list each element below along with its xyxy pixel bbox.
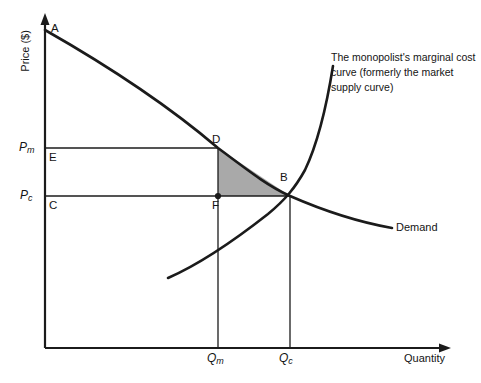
tick-label-quantity-competitive-main: Q [279,351,288,365]
point-label-d: D [212,132,220,146]
tick-label-price-competitive-main: P [20,188,28,202]
tick-label-quantity-competitive-sub: c [288,356,293,366]
demand-curve-label: Demand [396,221,438,235]
tick-label-quantity-competitive: Qc [279,351,293,367]
point-label-f: F [212,198,219,212]
tick-label-quantity-monopoly-main: Q [207,351,216,365]
tick-label-price-competitive: Pc [20,188,33,204]
tick-label-quantity-monopoly-sub: m [216,356,224,366]
y-axis-title: Price ($) [19,16,33,86]
tick-label-quantity-monopoly: Qm [207,351,224,367]
tick-label-price-monopoly-main: P [19,140,27,154]
point-label-a: A [51,21,59,35]
y-axis-arrowhead [41,13,50,25]
point-label-b: B [280,170,288,184]
x-axis-title: Quantity [404,352,445,366]
tick-label-price-competitive-sub: c [28,193,33,203]
tick-label-price-monopoly-sub: m [27,145,35,155]
tick-label-price-monopoly: Pm [19,140,35,156]
marginal-cost-annotation: The monopolist's marginal cost curve (fo… [331,50,481,95]
point-label-e: E [49,150,57,164]
point-label-c: C [49,198,57,212]
